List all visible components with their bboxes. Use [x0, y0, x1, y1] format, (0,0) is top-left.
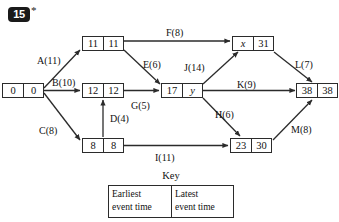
activity-label-G: G(5): [131, 100, 150, 111]
earliest-time: 23: [231, 139, 251, 152]
earliest-time: 12: [83, 84, 103, 97]
earliest-time: 8: [83, 139, 103, 152]
earliest-time: 11: [83, 37, 103, 50]
latest-time: 0: [23, 84, 43, 97]
activity-label-L: L(7): [295, 59, 313, 70]
activity-label-H: H(6): [215, 109, 234, 120]
earliest-time: 17: [162, 84, 182, 97]
activity-label-J: J(14): [184, 62, 205, 73]
event-node-23-30: 23 30: [230, 138, 272, 153]
latest-time: 8: [103, 139, 123, 152]
activity-label-M: M(8): [291, 124, 312, 135]
latest-time-unknown-y: y: [182, 84, 202, 97]
event-node-38: 38 38: [296, 83, 338, 98]
activity-label-D: D(4): [110, 113, 129, 124]
event-node-x-31: x 31: [232, 36, 274, 51]
activity-network-figure: 15 *: [0, 0, 339, 222]
earliest-time: 38: [297, 84, 317, 97]
key-latest-line1: Latest: [175, 188, 230, 201]
latest-time: 11: [103, 37, 123, 50]
key-title: Key: [108, 170, 234, 182]
activity-label-K: K(9): [237, 79, 256, 90]
activity-label-B: B(10): [52, 77, 75, 88]
key-latest-line2: event time: [175, 201, 230, 214]
event-node-8: 8 8: [82, 138, 124, 153]
activity-label-E: E(6): [143, 59, 161, 70]
activity-label-A: A(11): [37, 55, 61, 66]
key-earliest-line1: Earliest: [112, 188, 168, 201]
activity-label-F: F(8): [166, 27, 183, 38]
activity-label-C: C(8): [39, 125, 57, 136]
latest-time: 31: [253, 37, 273, 50]
event-node-11: 11 11: [82, 36, 124, 51]
latest-time: 30: [251, 139, 271, 152]
event-node-12: 12 12: [82, 83, 124, 98]
latest-time: 38: [317, 84, 337, 97]
latest-time: 12: [103, 84, 123, 97]
key-cell-latest: Latest event time: [171, 186, 233, 217]
earliest-time: 0: [3, 84, 23, 97]
key-cell-earliest: Earliest event time: [109, 186, 171, 217]
key-earliest-line2: event time: [112, 201, 168, 214]
activity-label-I: I(11): [155, 152, 175, 163]
key-box: Earliest event time Latest event time: [108, 185, 234, 218]
event-node-17-y: 17 y: [161, 83, 203, 98]
earliest-time-unknown-x: x: [233, 37, 253, 50]
event-node-start: 0 0: [2, 83, 44, 98]
edge-J: [203, 52, 238, 84]
